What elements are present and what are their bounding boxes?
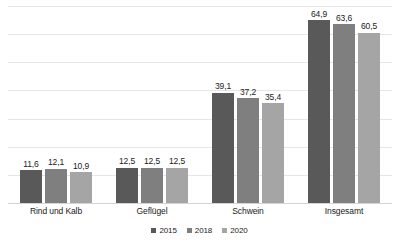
- bar[interactable]: [333, 24, 355, 203]
- category-axis: Rind und KalbGeflügelSchweinInsgesamt: [8, 205, 392, 221]
- chart-legend: 201520182020: [0, 226, 399, 235]
- bar-value-label: 12,1: [48, 157, 64, 167]
- legend-swatch-icon: [187, 228, 192, 233]
- bar-slot: 64,9: [308, 6, 330, 203]
- bar-slot: 39,1: [212, 6, 234, 203]
- legend-label: 2018: [195, 226, 212, 235]
- bar-slot: 12,1: [45, 6, 67, 203]
- bar-value-label: 60,5: [361, 21, 377, 31]
- bar-value-label: 37,2: [240, 87, 256, 97]
- bar[interactable]: [358, 33, 380, 203]
- bar[interactable]: [308, 20, 330, 203]
- legend-item-2015[interactable]: 2015: [151, 226, 176, 235]
- bar-slot: 10,9: [70, 6, 92, 203]
- bar-group-inner: 11,612,110,9: [20, 6, 92, 203]
- bar-group-inner: 39,137,235,4: [212, 6, 284, 203]
- bar-value-label: 10,9: [73, 161, 89, 171]
- bar-group: 64,963,660,5: [296, 6, 392, 203]
- bar[interactable]: [116, 168, 138, 203]
- legend-item-2018[interactable]: 2018: [187, 226, 212, 235]
- legend-label: 2020: [230, 226, 247, 235]
- bar[interactable]: [212, 93, 234, 203]
- bar-value-label: 12,5: [169, 156, 185, 166]
- legend-item-2020[interactable]: 2020: [222, 226, 247, 235]
- legend-label: 2015: [159, 226, 176, 235]
- category-label-3: Schwein: [200, 205, 296, 217]
- bar-value-label: 35,4: [265, 92, 281, 102]
- bar-group: 12,512,512,5: [104, 6, 200, 203]
- bar-group-inner: 12,512,512,5: [116, 6, 188, 203]
- bar[interactable]: [237, 98, 259, 203]
- bar-slot: 12,5: [116, 6, 138, 203]
- bar-slot: 37,2: [237, 6, 259, 203]
- bar-slot: 35,4: [262, 6, 284, 203]
- plot-area: 11,612,110,912,512,512,539,137,235,464,9…: [8, 6, 392, 203]
- axis-baseline: [8, 203, 392, 204]
- bar-slot: 63,6: [333, 6, 355, 203]
- bar-value-label: 39,1: [215, 81, 231, 91]
- bar-slot: 12,5: [141, 6, 163, 203]
- bar-group: 11,612,110,9: [8, 6, 104, 203]
- bar-value-label: 64,9: [311, 9, 327, 19]
- bar-slot: 11,6: [20, 6, 42, 203]
- bar[interactable]: [20, 170, 42, 203]
- legend-swatch-icon: [222, 228, 227, 233]
- category-label-2: Geflügel: [104, 205, 200, 217]
- bar[interactable]: [166, 168, 188, 203]
- bar[interactable]: [141, 168, 163, 203]
- bar-chart: 11,612,110,912,512,512,539,137,235,464,9…: [0, 0, 399, 240]
- category-label-4: Insgesamt: [296, 205, 392, 217]
- bar-value-label: 12,5: [119, 156, 135, 166]
- category-label-1: Rind und Kalb: [8, 205, 104, 217]
- bar-value-label: 11,6: [23, 159, 39, 169]
- bars-layer: 11,612,110,912,512,512,539,137,235,464,9…: [8, 6, 392, 203]
- bar-group: 39,137,235,4: [200, 6, 296, 203]
- bar[interactable]: [262, 103, 284, 203]
- legend-swatch-icon: [151, 228, 156, 233]
- bar-group-inner: 64,963,660,5: [308, 6, 380, 203]
- bar[interactable]: [45, 169, 67, 203]
- bar-slot: 12,5: [166, 6, 188, 203]
- bar-slot: 60,5: [358, 6, 380, 203]
- bar[interactable]: [70, 172, 92, 203]
- bar-value-label: 12,5: [144, 156, 160, 166]
- bar-value-label: 63,6: [336, 13, 352, 23]
